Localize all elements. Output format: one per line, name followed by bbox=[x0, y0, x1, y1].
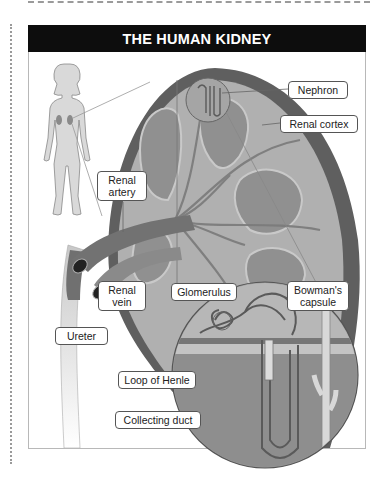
label-collecting-duct: Collecting duct bbox=[115, 411, 201, 429]
label-bowmans-capsule: Bowman'scapsule bbox=[287, 281, 349, 311]
label-ureter: Ureter bbox=[55, 327, 108, 345]
small-kidney-right-icon bbox=[67, 115, 73, 125]
label-text: Glomerulus bbox=[177, 286, 231, 298]
label-text: Nephron bbox=[298, 84, 338, 96]
label-renal-cortex: Renal cortex bbox=[280, 115, 358, 133]
label-text: Collecting duct bbox=[124, 414, 193, 426]
label-text: Loop of Henle bbox=[124, 374, 189, 386]
label-text: Bowman's bbox=[294, 284, 342, 296]
label-text: capsule bbox=[300, 296, 336, 308]
label-text: Renal bbox=[108, 284, 135, 296]
label-loop-of-henle: Loop of Henle bbox=[118, 371, 196, 389]
label-text: Ureter bbox=[67, 330, 96, 342]
label-text: Renal cortex bbox=[290, 118, 349, 130]
small-kidney-left-icon bbox=[56, 115, 62, 125]
label-text: vein bbox=[112, 296, 131, 308]
label-renal-vein: Renalvein bbox=[98, 281, 146, 311]
label-text: Renal bbox=[108, 174, 135, 186]
label-renal-artery: Renalartery bbox=[97, 171, 147, 201]
human-figure-icon bbox=[44, 64, 90, 215]
label-text: artery bbox=[109, 186, 136, 198]
label-nephron: Nephron bbox=[288, 81, 348, 99]
label-glomerulus: Glomerulus bbox=[171, 283, 237, 301]
nephron-circle bbox=[186, 78, 230, 122]
